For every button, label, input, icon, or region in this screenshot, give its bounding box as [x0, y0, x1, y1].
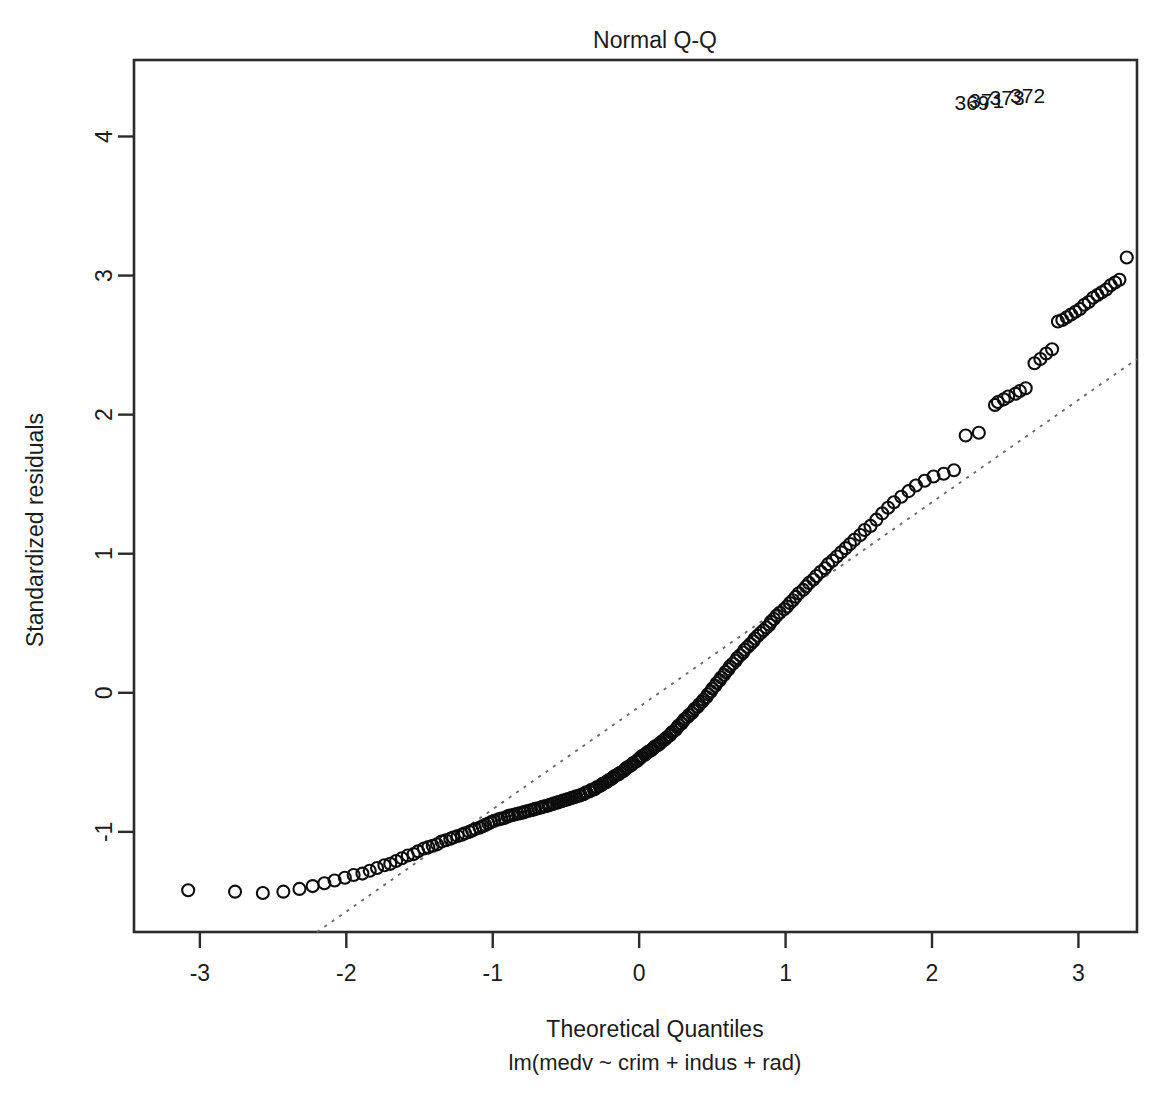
x-tick-label: 2	[926, 960, 939, 986]
y-tick-label: -1	[91, 822, 117, 842]
x-tick-label: 1	[779, 960, 792, 986]
x-tick-label: -2	[336, 960, 356, 986]
y-tick-label: 3	[91, 269, 117, 282]
plot-canvas: Normal Q-Q 369371373372 -3-2-10123 -1012…	[0, 0, 1171, 1096]
y-tick-label: 0	[91, 686, 117, 699]
y-tick-label: 1	[91, 547, 117, 560]
model-formula-caption: lm(medv ~ crim + indus + rad)	[509, 1050, 802, 1075]
x-tick-label: -3	[190, 960, 210, 986]
x-axis-label: Theoretical Quantiles	[546, 1016, 763, 1042]
outlier-label: 372	[1010, 84, 1045, 107]
y-axis-label: Standardized residuals	[22, 413, 48, 647]
x-tick-label: 0	[633, 960, 646, 986]
y-tick-label: 4	[91, 130, 117, 143]
x-tick-label: 3	[1072, 960, 1085, 986]
y-tick-label: 2	[91, 408, 117, 421]
plot-title: Normal Q-Q	[593, 27, 717, 53]
x-tick-label: -1	[483, 960, 503, 986]
qq-plot-figure: Normal Q-Q 369371373372 -3-2-10123 -1012…	[0, 0, 1171, 1096]
